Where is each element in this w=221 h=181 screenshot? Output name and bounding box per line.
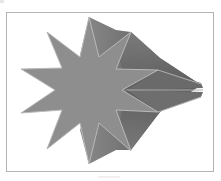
extruded-star-illustration: [0, 0, 221, 181]
bottom-mark: [98, 176, 120, 178]
